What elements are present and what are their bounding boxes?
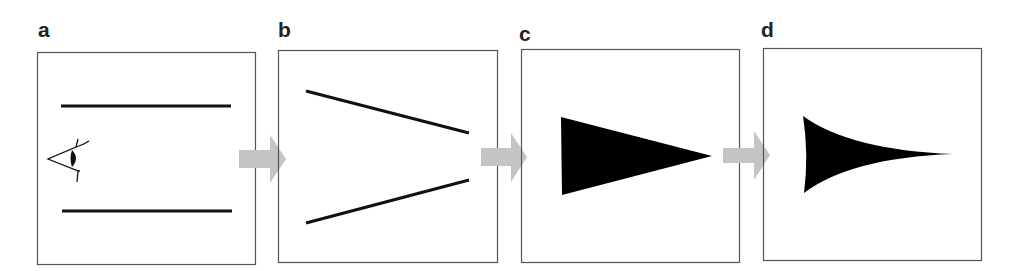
arrow-b-to-c (481, 133, 527, 182)
converging-line-bottom (306, 180, 469, 223)
panel-d (764, 49, 982, 261)
panel-a (38, 53, 256, 265)
converging-line-top (306, 91, 469, 133)
panel-c (522, 50, 740, 263)
diagram-canvas (0, 0, 1018, 271)
filled-triangle (561, 117, 712, 195)
panel-b (279, 51, 498, 263)
concave-shape (803, 116, 953, 193)
